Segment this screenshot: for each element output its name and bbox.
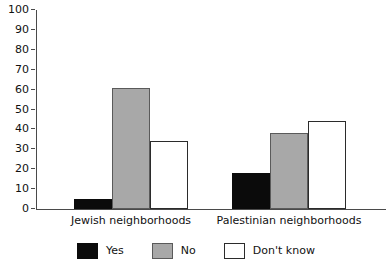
bar-jewish-yes: [74, 199, 112, 209]
y-axis-tick-label: 40: [15, 123, 29, 135]
y-axis-tick: 100: [0, 4, 36, 16]
y-axis-tick: 50: [0, 104, 36, 116]
y-axis-tick-mark: [31, 148, 35, 149]
y-axis-tick-label: 0: [22, 203, 29, 215]
bar-palestinian-don-t-know: [308, 121, 346, 209]
y-axis-tick-label: 80: [15, 44, 29, 56]
y-axis-tick-mark: [31, 188, 35, 189]
y-axis-tick-label: 70: [15, 64, 29, 76]
chart-legend: Yes No Don't know: [0, 243, 392, 259]
y-axis-tick-label: 50: [15, 104, 29, 116]
bar-palestinian-yes: [232, 173, 270, 209]
y-axis-tick-mark: [31, 69, 35, 70]
legend-label-dont-know: Don't know: [253, 244, 315, 258]
y-axis-tick: 40: [0, 123, 36, 135]
legend-item-yes: Yes: [77, 243, 124, 259]
y-axis-tick-mark: [31, 208, 35, 209]
y-axis-tick: 90: [0, 24, 36, 36]
legend-item-no: No: [152, 243, 196, 259]
white-square-swatch-icon: [224, 243, 245, 259]
y-axis-tick-label: 100: [8, 4, 29, 16]
y-axis-tick-mark: [31, 168, 35, 169]
y-axis-tick-mark: [31, 29, 35, 30]
x-axis-line: [36, 209, 386, 210]
y-axis-tick-label: 20: [15, 163, 29, 175]
bar-jewish-don-t-know: [150, 141, 188, 209]
y-axis-tick: 70: [0, 64, 36, 76]
black-square-swatch-icon: [77, 243, 98, 259]
legend-label-yes: Yes: [106, 244, 124, 258]
y-axis-tick-label: 90: [15, 24, 29, 36]
y-axis-tick-mark: [31, 109, 35, 110]
y-axis-tick-mark: [31, 49, 35, 50]
y-axis-tick-mark: [31, 9, 35, 10]
y-axis-tick: 10: [0, 183, 36, 195]
bars-layer: [37, 10, 386, 209]
y-axis-tick: 60: [0, 84, 36, 96]
x-axis-group-label-palestinian: Palestinian neighborhoods: [189, 214, 389, 228]
y-axis-tick-mark: [31, 128, 35, 129]
y-axis-tick-label: 60: [15, 84, 29, 96]
legend-label-no: No: [181, 244, 196, 258]
legend-item-dont-know: Don't know: [224, 243, 315, 259]
y-axis-tick: 30: [0, 143, 36, 155]
y-axis-tick-mark: [31, 89, 35, 90]
y-axis-tick: 20: [0, 163, 36, 175]
y-axis-tick: 80: [0, 44, 36, 56]
gray-square-swatch-icon: [152, 243, 173, 259]
bar-jewish-no: [112, 88, 150, 209]
y-axis-tick-label: 10: [15, 183, 29, 195]
bar-palestinian-no: [270, 133, 308, 209]
y-axis-tick-label: 30: [15, 143, 29, 155]
bar-chart: 0102030405060708090100 Jewish neighborho…: [0, 0, 392, 275]
